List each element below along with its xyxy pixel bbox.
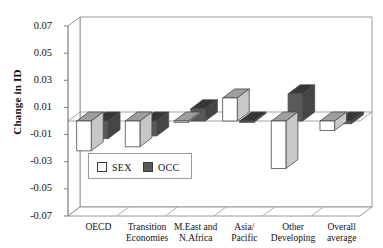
chart-legend: SEX OCC [88, 153, 192, 179]
bar-g3-s0-front [223, 98, 238, 121]
bar-g3-s1-front [239, 121, 254, 122]
legend-label-occ: OCC [158, 162, 179, 173]
y-axis-tick-label: 0.05 [16, 48, 52, 59]
legend-label-sex: SEX [112, 162, 132, 173]
y-axis-tick-label: -0.07 [16, 211, 52, 222]
bar-g4-s0-front [271, 121, 286, 169]
bar-g4-s0-side [286, 112, 298, 169]
legend-swatch-occ [143, 162, 153, 172]
bar-g1-s0-front [125, 121, 140, 147]
bar-g2-s0-front [174, 121, 189, 122]
y-axis-tick-label: -0.01 [16, 129, 52, 140]
chart-container: Change in ID 0.070.050.030.01-0.01-0.03-… [0, 0, 383, 248]
x-axis-category-label-line: Overall [297, 222, 383, 233]
legend-item-occ: OCC [143, 159, 179, 175]
y-axis-tick-label: 0.01 [16, 102, 52, 113]
x-axis-category-label-line: average [297, 233, 383, 244]
x-axis-category-label: Overallaverage [297, 222, 383, 244]
y-axis-tick-label: -0.05 [16, 183, 52, 194]
bar-g5-s0-front [320, 121, 335, 131]
y-axis-tick-label: 0.07 [16, 21, 52, 32]
chart-plot-area [0, 0, 383, 248]
legend-item-sex: SEX [97, 159, 132, 175]
y-axis-tick-label: -0.03 [16, 156, 52, 167]
y-axis-tick-label: 0.03 [16, 75, 52, 86]
legend-swatch-sex [97, 162, 107, 172]
bar-g0-s0-front [77, 121, 92, 151]
y-axis-tick-labels: 0.070.050.030.01-0.01-0.03-0.05-0.07 [14, 0, 52, 248]
